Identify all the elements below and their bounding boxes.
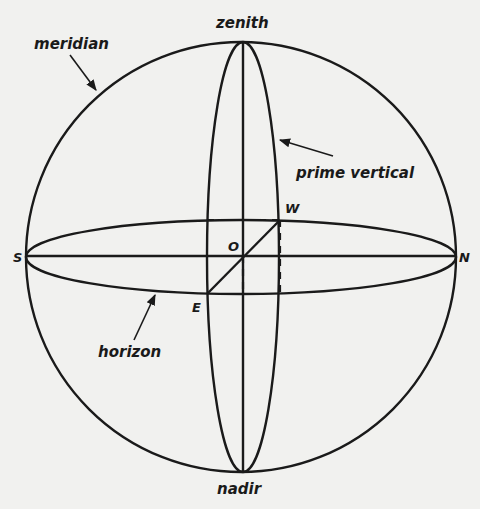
label-prime-vertical: prime vertical xyxy=(295,164,415,182)
label-zenith: zenith xyxy=(215,14,269,32)
label-north: N xyxy=(459,250,470,265)
prime-vertical-arrow xyxy=(280,140,333,156)
label-horizon: horizon xyxy=(98,343,161,361)
label-meridian: meridian xyxy=(34,35,109,53)
label-east: E xyxy=(192,300,201,315)
label-origin: O xyxy=(228,239,239,254)
label-south: S xyxy=(13,250,22,265)
horizon-arrow xyxy=(134,295,155,340)
label-nadir: nadir xyxy=(217,480,263,498)
label-west: W xyxy=(285,201,300,216)
meridian-arrow xyxy=(70,55,96,90)
celestial-sphere-diagram: zenith meridian prime vertical W O S N E… xyxy=(0,0,480,509)
